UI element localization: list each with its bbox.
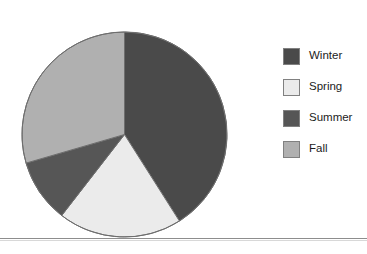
legend-item-winter[interactable]: Winter — [283, 46, 365, 66]
pie-chart-svg — [21, 31, 228, 238]
legend-item-fall[interactable]: Fall — [283, 139, 365, 159]
legend-swatch-summer — [283, 110, 300, 127]
pie-slice-group — [22, 32, 227, 237]
pie-chart-plot-area — [21, 31, 228, 238]
footer-divider — [0, 238, 367, 239]
legend-swatch-winter — [283, 48, 300, 65]
legend-label-winter: Winter — [309, 50, 342, 62]
legend-label-fall: Fall — [309, 143, 328, 155]
footer-divider-shadow — [0, 240, 367, 241]
legend-item-spring[interactable]: Spring — [283, 77, 365, 97]
legend-label-summer: Summer — [309, 112, 352, 124]
chart-legend: Winter Spring Summer Fall — [283, 46, 365, 159]
legend-label-spring: Spring — [309, 81, 342, 93]
legend-swatch-spring — [283, 79, 300, 96]
legend-item-summer[interactable]: Summer — [283, 108, 365, 128]
legend-swatch-fall — [283, 141, 300, 158]
pie-chart-figure: Winter Spring Summer Fall — [0, 0, 367, 254]
